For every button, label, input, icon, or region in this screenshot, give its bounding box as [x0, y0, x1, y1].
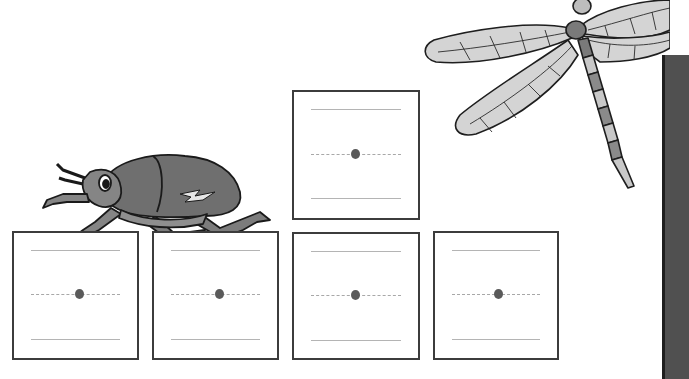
writing-box-3[interactable]: [292, 232, 420, 360]
bottom-guide-line: [311, 198, 401, 199]
writing-box-4[interactable]: [433, 231, 559, 360]
start-dot: [494, 289, 503, 299]
bottom-guide-line: [311, 340, 401, 341]
top-guide-line: [452, 250, 540, 251]
start-dot: [215, 289, 224, 299]
start-dot: [351, 290, 360, 300]
bottom-guide-line: [31, 339, 120, 340]
top-guide-line: [171, 250, 260, 251]
top-guide-line: [31, 250, 120, 251]
writing-box-2[interactable]: [152, 231, 279, 360]
start-dot: [75, 289, 84, 299]
start-dot: [351, 149, 360, 159]
top-guide-line: [311, 251, 401, 252]
writing-box-1[interactable]: [12, 231, 139, 360]
writing-box-raised[interactable]: [292, 90, 420, 220]
top-guide-line: [311, 109, 401, 110]
bottom-guide-line: [452, 339, 540, 340]
bottom-guide-line: [171, 339, 260, 340]
dragonfly-illustration: [420, 0, 670, 190]
